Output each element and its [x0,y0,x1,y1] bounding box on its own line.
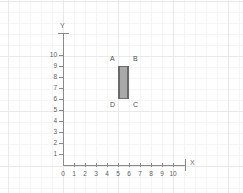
y-tick-6 [59,99,64,100]
x-tick-10 [173,163,174,167]
y-tick-label-3: 3 [43,128,57,135]
y-tick-label-2: 2 [43,139,57,146]
y-axis-end-cap [58,33,69,34]
x-tick-5 [118,163,119,167]
x-tick-4 [107,163,108,167]
y-tick-label-4: 4 [43,117,57,124]
y-tick-5 [59,110,64,111]
x-axis-end-cap [185,159,186,171]
y-axis-label: Y [60,22,65,29]
x-axis-label: X [190,159,195,166]
vertex-label-b: B [133,55,138,62]
y-tick-label-8: 8 [43,73,57,80]
y-tick-label-9: 9 [43,62,57,69]
y-tick-label-1: 1 [43,150,57,157]
y-tick-label-6: 6 [43,95,57,102]
y-tick-3 [59,132,64,133]
x-tick-7 [140,163,141,167]
y-tick-8 [59,77,64,78]
vertex-label-a: A [110,55,115,62]
x-axis-line [63,165,185,166]
rectangle-abcd [118,66,129,99]
x-tick-8 [151,163,152,167]
y-tick-2 [59,143,64,144]
x-tick-9 [162,163,163,167]
y-tick-10 [59,55,64,56]
vertex-label-d: D [110,101,115,108]
y-tick-4 [59,121,64,122]
y-tick-1 [59,154,64,155]
x-tick-label-10: 10 [167,170,179,177]
y-tick-label-10: 10 [43,51,57,58]
x-tick-6 [129,163,130,167]
y-tick-label-7: 7 [43,84,57,91]
y-tick-9 [59,66,64,67]
y-tick-label-5: 5 [43,106,57,113]
vertex-label-c: C [133,101,138,108]
coordinate-plane-figure: Y X 12345678910012345678910 ABCD [0,0,243,193]
x-tick-1 [74,163,75,167]
x-tick-3 [96,163,97,167]
y-tick-7 [59,88,64,89]
x-tick-2 [85,163,86,167]
